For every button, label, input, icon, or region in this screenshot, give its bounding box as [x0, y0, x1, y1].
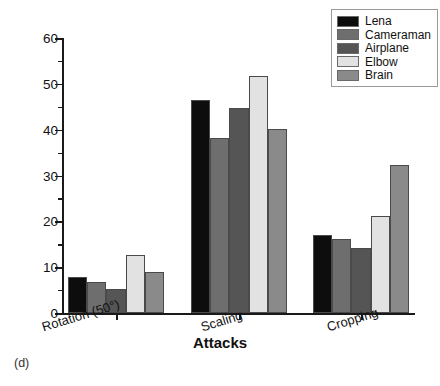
legend-label-lena: Lena — [365, 15, 392, 27]
bar-airplane-scaling — [229, 108, 248, 313]
bar-brain-scaling — [268, 129, 287, 313]
y-tick-label: 60 — [43, 31, 58, 46]
y-minor-tick — [58, 153, 62, 154]
legend-label-airplane: Airplane — [365, 42, 409, 54]
bar-elbow-scaling — [249, 76, 268, 313]
legend-item-cameraman: Cameraman — [337, 28, 431, 41]
legend-swatch-airplane — [337, 43, 359, 54]
legend-label-cameraman: Cameraman — [365, 29, 431, 41]
y-minor-tick — [58, 244, 62, 245]
bar-airplane-cropping — [351, 248, 370, 313]
legend-item-lena: Lena — [337, 15, 431, 28]
x-tick-0 — [116, 313, 118, 320]
y-minor-tick — [58, 198, 62, 199]
legend-item-brain: Brain — [337, 69, 431, 82]
legend-item-elbow: Elbow — [337, 55, 431, 68]
panel-label: (d) — [14, 356, 29, 370]
legend-label-brain: Brain — [365, 69, 393, 81]
y-minor-tick — [58, 61, 62, 62]
bar-lena-cropping — [313, 235, 332, 313]
y-tick-label: 20 — [43, 214, 58, 229]
y-tick-label: 40 — [43, 122, 58, 137]
legend-item-airplane: Airplane — [337, 42, 431, 55]
bar-elbow-rotation — [126, 255, 145, 313]
legend-label-elbow: Elbow — [365, 56, 398, 68]
y-minor-tick — [58, 107, 62, 108]
bar-cameraman-cropping — [332, 239, 351, 313]
bar-brain-cropping — [390, 165, 409, 313]
y-tick-label: 10 — [43, 260, 58, 275]
legend-swatch-elbow — [337, 56, 359, 67]
legend-swatch-cameraman — [337, 29, 359, 40]
bar-cameraman-scaling — [210, 138, 229, 313]
legend-swatch-brain — [337, 70, 359, 81]
psnr-attacks-bar-chart-figure: 0102030405060 PSNR (dB) Attacks Rotation… — [0, 0, 440, 386]
bar-lena-scaling — [191, 100, 210, 313]
legend: LenaCameramanAirplaneElbowBrain — [331, 9, 438, 87]
y-tick-label: 30 — [43, 168, 58, 183]
legend-swatch-lena — [337, 16, 359, 27]
y-axis-line — [62, 38, 64, 313]
y-minor-tick — [58, 290, 62, 291]
x-axis-title: Attacks — [0, 334, 440, 351]
bar-elbow-cropping — [371, 216, 390, 313]
y-tick-label: 50 — [43, 76, 58, 91]
bar-brain-rotation — [145, 272, 164, 313]
